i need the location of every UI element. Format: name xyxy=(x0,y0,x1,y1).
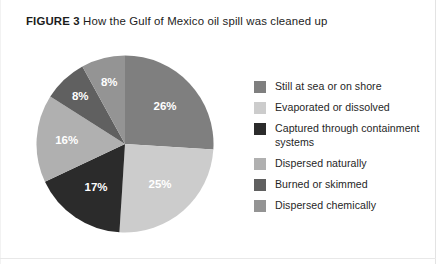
pie-slice-label: 26% xyxy=(153,100,176,112)
figure-caption: FIGURE 3 How the Gulf of Mexico oil spil… xyxy=(26,15,328,27)
legend-item-label: Still at sea or on shore xyxy=(275,80,382,94)
legend-item-label: Dispersed chemically xyxy=(275,199,376,213)
pie-slice-label: 16% xyxy=(55,134,78,146)
legend-color-swatch xyxy=(254,81,266,93)
legend-color-swatch xyxy=(254,179,266,191)
legend: Still at sea or on shoreEvaporated or di… xyxy=(254,80,432,220)
legend-color-swatch xyxy=(254,158,266,170)
figure-number: FIGURE 3 xyxy=(26,15,80,27)
legend-item[interactable]: Evaporated or dissolved xyxy=(254,101,432,115)
legend-color-swatch xyxy=(254,123,266,135)
pie-slice-label: 8% xyxy=(101,76,118,88)
figure-container: FIGURE 3 How the Gulf of Mexico oil spil… xyxy=(0,0,436,264)
legend-item[interactable]: Dispersed chemically xyxy=(254,199,432,213)
legend-item[interactable]: Dispersed naturally xyxy=(254,157,432,171)
pie-slice-label: 17% xyxy=(85,181,108,193)
legend-item-label: Dispersed naturally xyxy=(275,157,367,171)
figure-border-bottom xyxy=(0,258,436,259)
legend-item[interactable]: Burned or skimmed xyxy=(254,178,432,192)
figure-caption-text: How the Gulf of Mexico oil spill was cle… xyxy=(83,15,327,27)
pie-chart: 26%25%17%16%8%8% xyxy=(36,55,214,233)
legend-item[interactable]: Still at sea or on shore xyxy=(254,80,432,94)
pie-slice-label: 8% xyxy=(72,90,89,102)
legend-item-label: Evaporated or dissolved xyxy=(275,101,390,115)
legend-color-swatch xyxy=(254,102,266,114)
legend-color-swatch xyxy=(254,200,266,212)
pie-chart-svg: 26%25%17%16%8%8% xyxy=(36,55,214,233)
legend-item-label: Captured through containment systems xyxy=(275,122,432,149)
legend-item-label: Burned or skimmed xyxy=(275,178,368,192)
figure-border-left xyxy=(0,0,1,264)
pie-slice-label: 25% xyxy=(149,178,172,190)
legend-item[interactable]: Captured through containment systems xyxy=(254,122,432,149)
